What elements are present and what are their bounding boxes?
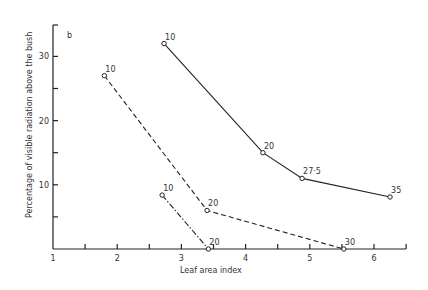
y-tick-label: 20 (39, 117, 49, 126)
x-axis-label: Leaf area index (180, 266, 242, 275)
x-tick-label: 4 (243, 254, 248, 263)
data-point (206, 247, 210, 251)
point-label: 27·5 (303, 167, 321, 176)
point-label: 35 (391, 186, 401, 195)
point-label: 20 (208, 199, 218, 208)
y-tick-label: 10 (39, 181, 49, 190)
x-tick-label: 1 (50, 254, 55, 263)
series-dashed: 102030 (102, 65, 355, 252)
x-tick-label: 2 (115, 254, 120, 263)
data-point (300, 176, 304, 180)
panel-label: b (67, 31, 72, 40)
data-point (160, 193, 164, 197)
data-point (205, 208, 209, 212)
series-dash-dot: 1020 (160, 184, 220, 251)
point-label: 20 (264, 142, 274, 151)
data-point (342, 247, 346, 251)
data-point (162, 41, 166, 45)
y-tick-label: 30 (39, 52, 49, 61)
x-tick-label: 3 (179, 254, 184, 263)
chart: 102030 123456 Leaf area index Percentage… (0, 0, 428, 290)
series-group: 102027·5351020301020 (102, 33, 401, 252)
y-axis-label: Percentage of visible radiation above th… (25, 32, 34, 218)
data-point (388, 195, 392, 199)
data-point (102, 73, 106, 77)
x-tick-label: 5 (307, 254, 312, 263)
y-ticks: 102030 (39, 52, 58, 217)
y-axis (53, 25, 58, 249)
point-label: 10 (165, 33, 175, 42)
point-label: 30 (345, 238, 355, 247)
series-solid: 102027·535 (162, 33, 401, 200)
data-point (261, 151, 265, 155)
x-tick-label: 6 (371, 254, 376, 263)
point-label: 10 (105, 65, 115, 74)
point-label: 10 (163, 184, 173, 193)
point-label: 20 (209, 238, 219, 247)
